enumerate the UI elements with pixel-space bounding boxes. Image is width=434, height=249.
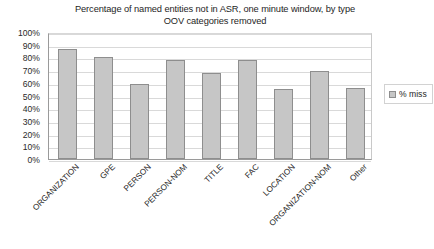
- y-axis-tick-label: 10%: [23, 142, 40, 152]
- y-axis-tick-label: 100%: [18, 28, 40, 38]
- bar: [310, 71, 329, 159]
- x-axis-tick-label: LOCATION: [261, 161, 298, 198]
- bar: [130, 84, 149, 159]
- y-axis-tick-label: 40%: [23, 104, 40, 114]
- plot-area: [48, 33, 372, 160]
- x-axis-tick-label: TITLE: [203, 161, 227, 185]
- chart-title-line-2: OOV categories removed: [40, 15, 390, 27]
- bar: [94, 57, 113, 159]
- x-axis-tick-label: GPE: [98, 161, 118, 181]
- y-axis-tick-label: 70%: [23, 66, 40, 76]
- chart-title-line-1: Percentage of named entities not in ASR,…: [40, 3, 390, 15]
- x-axis-labels: ORGANIZATIONGPEPERSONPERSON-NOMTITLEFACL…: [48, 161, 372, 249]
- x-axis-tick-label: Other: [348, 161, 370, 183]
- bar-chart: Percentage of named entities not in ASR,…: [0, 0, 434, 249]
- y-axis-tick-label: 90%: [23, 41, 40, 51]
- chart-title: Percentage of named entities not in ASR,…: [40, 3, 390, 27]
- y-axis-tick-label: 0%: [28, 155, 40, 165]
- bar: [238, 60, 257, 159]
- y-axis-tick-label: 60%: [23, 79, 40, 89]
- x-axis-tick-label: ORGANIZATION: [31, 161, 82, 212]
- y-axis-tick-label: 20%: [23, 130, 40, 140]
- bar: [274, 89, 293, 159]
- y-axis-labels: 0%10%20%30%40%50%60%70%80%90%100%: [0, 33, 44, 160]
- bar: [346, 88, 365, 159]
- x-axis-tick-label: PERSON: [122, 161, 154, 193]
- bar: [202, 73, 221, 159]
- chart-legend: % miss: [384, 84, 433, 104]
- bar: [58, 49, 77, 159]
- legend-swatch-icon: [389, 91, 396, 98]
- bars-layer: [49, 34, 371, 159]
- x-axis-tick-label: FAC: [243, 161, 262, 180]
- y-axis-tick-label: 80%: [23, 53, 40, 63]
- x-axis-tick-label: ORGANIZATION-NOM: [268, 161, 335, 228]
- y-axis-tick-label: 50%: [23, 92, 40, 102]
- bar: [166, 60, 185, 159]
- legend-label: % miss: [399, 89, 427, 99]
- y-axis-tick-label: 30%: [23, 117, 40, 127]
